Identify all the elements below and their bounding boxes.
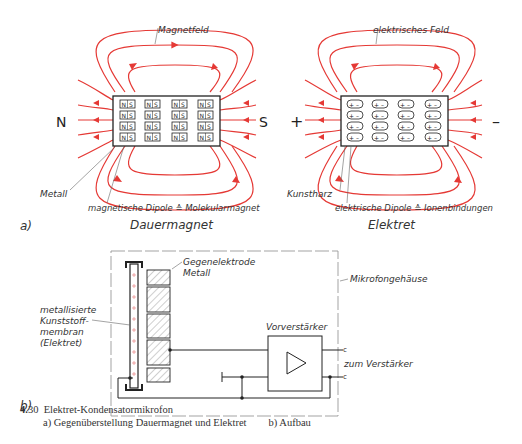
magnet-title: Dauermagnet (130, 218, 214, 232)
figure-caption: 4.30 Elektret-Kondensatormikrofon a) Geg… (20, 403, 311, 429)
caption-sub-b: b) Aufbau (269, 417, 311, 428)
svg-text:S: S (181, 101, 185, 108)
output-terminal-1: c (343, 346, 347, 354)
svg-text:+: + (349, 101, 354, 108)
caption-number: 4. (20, 404, 28, 415)
svg-text:+: + (400, 101, 405, 108)
svg-text:N: N (147, 101, 152, 108)
magnet-pole-north: N (56, 114, 66, 130)
electret-pole-plus: + (290, 112, 303, 131)
membrane-label-1: metallisierte (40, 305, 97, 315)
caption-title: Elektret-Kondensatormikrofon (44, 404, 173, 415)
housing-label: Mikrofongehäuse (350, 274, 428, 284)
electret-material-label: Kunstharz (287, 189, 332, 199)
magnet-diagram: NS NS NS NS Magnetfeld N S Metall magnet… (40, 25, 268, 232)
svg-text:–: – (407, 101, 410, 108)
electret-membrane (126, 262, 142, 390)
counter-electrode (147, 270, 170, 382)
magnet-dipole-label: magnetische Dipole ≙ Molekularmagnet (88, 203, 260, 213)
magnet-pole-south: S (259, 114, 268, 130)
microphone-construction-diagram: Mikrofongehäuse (40, 251, 428, 416)
output-label: zum Verstärker (343, 359, 414, 369)
svg-text:–: – (434, 101, 437, 108)
caption-number-rest: 30 (28, 404, 39, 415)
svg-text:–: – (356, 101, 359, 108)
output-terminal-2: c (343, 373, 347, 381)
electret-title: Elektret (368, 218, 416, 232)
caption-sub-a: a) Gegenüberstellung Dauermagnet und Ele… (43, 417, 247, 428)
counter-electrode-label-2: Metall (183, 268, 211, 278)
svg-text:+: + (427, 101, 432, 108)
svg-text:N: N (174, 101, 179, 108)
magnet-field-label: Magnetfeld (158, 25, 209, 35)
figure-diagram: NS NS NS NS Magnetfeld N S Metall magnet… (0, 0, 522, 444)
membrane-label-4: (Elektret) (40, 338, 82, 348)
svg-text:S: S (129, 101, 133, 108)
counter-electrode-label-1: Gegenelektrode (183, 257, 256, 267)
svg-text:S: S (207, 101, 211, 108)
membrane-label-2: Kunststoff- (40, 316, 89, 326)
svg-text:+: + (374, 101, 379, 108)
svg-text:–: – (381, 101, 384, 108)
preamplifier-box (268, 336, 322, 391)
preamp-label: Vorverstärker (266, 322, 329, 332)
electret-diagram: +– +– +– +– elektrisches Feld + – Kunsth… (287, 25, 500, 232)
membrane-label-3: membran (40, 327, 84, 337)
electret-dipole-label: elektrische Dipole ≙ Ionenbindungen (335, 203, 493, 213)
svg-text:N: N (122, 101, 127, 108)
electret-field-label: elektrisches Feld (373, 25, 449, 35)
part-a-label: a) (20, 219, 32, 233)
magnet-material-label: Metall (40, 189, 68, 199)
svg-text:S: S (154, 101, 158, 108)
svg-text:N: N (200, 101, 205, 108)
electret-pole-minus: – (492, 112, 500, 131)
